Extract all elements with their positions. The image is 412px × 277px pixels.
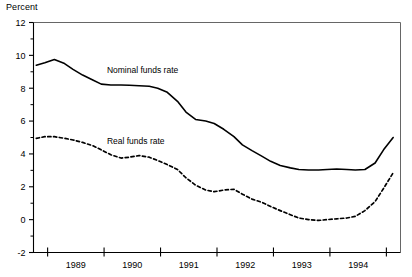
y-tick-label: 10	[15, 51, 25, 61]
y-axis-tick-labels: 121086420-2	[15, 18, 25, 258]
y-tick-label: -2	[17, 248, 25, 258]
x-tick-label: 1992	[235, 260, 255, 270]
y-tick-label: 4	[20, 149, 25, 159]
y-axis-ticks	[29, 23, 34, 253]
y-tick-label: 6	[20, 116, 25, 126]
x-tick-label: 1991	[179, 260, 199, 270]
x-tick-label: 1990	[122, 260, 142, 270]
x-tick-label: 1994	[348, 260, 368, 270]
x-tick-label: 1993	[292, 260, 312, 270]
series-label-nominal-funds-rate: Nominal funds rate	[107, 65, 179, 75]
chart-svg: 121086420-2 198919901991199219931994 Nom…	[0, 0, 412, 277]
data-series	[36, 59, 393, 220]
series-path-nominal-funds-rate	[36, 59, 393, 170]
x-tick-label: 1989	[66, 260, 86, 270]
series-path-real-funds-rate	[36, 137, 393, 221]
series-annotations: Nominal funds rateReal funds rate	[107, 65, 179, 146]
y-tick-label: 0	[20, 215, 25, 225]
y-tick-label: 8	[20, 84, 25, 94]
x-axis-tick-labels: 198919901991199219931994	[66, 260, 368, 270]
y-tick-label: 12	[15, 18, 25, 28]
y-tick-label: 2	[20, 182, 25, 192]
series-label-real-funds-rate: Real funds rate	[107, 136, 165, 146]
funds-rate-chart: Percent 121086420-2 19891990199119921993…	[0, 0, 412, 277]
